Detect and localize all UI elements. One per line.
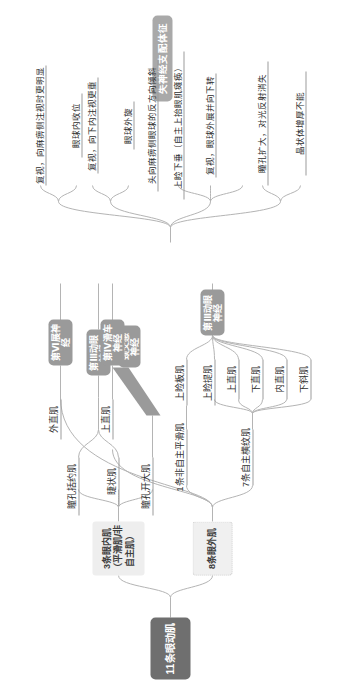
muscle-ciliary[interactable]: 睫状肌 xyxy=(104,457,119,505)
sign-n6-2: 眼球内收位 xyxy=(68,93,82,157)
muscle-superior-rectus-iii[interactable]: 上直肌 xyxy=(224,359,239,399)
sign-n4-3: 头向麻痹侧眼球的反方向倾斜 xyxy=(144,59,158,191)
sign-n4-2: 眼球外旋 xyxy=(120,101,134,149)
subgroup-striated[interactable]: 7条自主横纹肌 xyxy=(238,429,253,485)
group-inner-muscles[interactable]: 3条眼内肌 （平滑肌/非自主肌） xyxy=(92,521,144,575)
group-outer-muscles[interactable]: 8条眼外肌 xyxy=(192,521,232,575)
sign-n3a-1: 瞳孔扩大，对光反射消失 xyxy=(254,61,268,185)
muscle-superior-oblique[interactable]: 上直肌 xyxy=(98,399,113,439)
nerve-trochlear[interactable]: 第Ⅳ滑车神经 xyxy=(100,319,124,365)
muscle-pupil-dilator[interactable]: 瞳孔开大肌 xyxy=(138,457,153,515)
root-node[interactable]: 11条眼动肌 xyxy=(150,617,190,679)
sign-n4-1: 复视，向下内注视更重 xyxy=(84,77,98,173)
muscle-levator-palpebrae[interactable]: 上睑提肌 xyxy=(200,359,215,405)
sign-n3b-2: 复视，眼球外展并向下转 xyxy=(202,73,216,177)
subgroup-smooth[interactable]: 1条非自主平滑肌 xyxy=(172,429,187,485)
muscle-inferior-rectus[interactable]: 下直肌 xyxy=(248,359,263,399)
muscle-pupil-sphincter[interactable]: 瞳孔括约肌 xyxy=(64,457,79,515)
muscle-inferior-oblique[interactable]: 下斜肌 xyxy=(296,359,311,399)
muscle-superior-tarsal[interactable]: 上睑板肌 xyxy=(172,359,187,405)
muscle-medial-rectus[interactable]: 内直肌 xyxy=(272,359,287,399)
nerve-oculomotor-outer[interactable]: 第Ⅲ动眼神经 xyxy=(200,289,224,335)
sign-n6-1: 复视，向麻痹侧注视时更明显 xyxy=(32,65,46,185)
sign-n3b-1: 上睑下垂（自主上抬眼肌瘫痪） xyxy=(170,51,184,199)
muscle-lateral-rectus[interactable]: 外直肌 xyxy=(46,399,61,439)
sign-n3a-2: 晶状体增厚不能 xyxy=(292,71,306,175)
nerve-abducens[interactable]: 第Ⅵ展神经 xyxy=(48,319,72,365)
diagram-canvas: 11条眼动肌 3条眼内肌 （平滑肌/非自主肌） 8条眼外肌 1条非自主平滑肌 7… xyxy=(0,0,341,697)
